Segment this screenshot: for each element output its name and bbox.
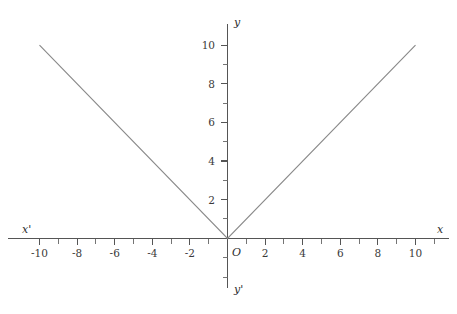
plot-background bbox=[0, 0, 457, 314]
x-axis-label: x bbox=[437, 223, 444, 236]
x-tick-label: 4 bbox=[299, 247, 306, 259]
x-tick-label: -10 bbox=[31, 247, 48, 259]
y-tick-label: 4 bbox=[208, 155, 215, 167]
x-tick-label: 8 bbox=[375, 247, 382, 259]
x-tick-label: 2 bbox=[262, 247, 269, 259]
y-tick-label: 8 bbox=[208, 78, 215, 90]
y-axis-label: y bbox=[233, 16, 241, 29]
y-tick-label: 10 bbox=[202, 39, 215, 51]
x-tick-label: -4 bbox=[147, 247, 158, 259]
absolute-value-plot: -10 -8 -6 -4 -2 2 4 6 8 10 2 4 6 8 10 x'… bbox=[0, 0, 457, 314]
x-tick-label: -8 bbox=[72, 247, 82, 259]
x-tick-label: 6 bbox=[337, 247, 344, 259]
figure-container: -10 -8 -6 -4 -2 2 4 6 8 10 2 4 6 8 10 x'… bbox=[0, 0, 457, 314]
y-tick-label: 2 bbox=[208, 194, 215, 206]
y-tick-label: 6 bbox=[208, 116, 215, 128]
x-tick-label: -6 bbox=[110, 247, 121, 259]
x-tick-label: 10 bbox=[409, 247, 422, 259]
y-prime-axis-label: y' bbox=[233, 283, 243, 296]
origin-label: O bbox=[232, 246, 241, 259]
x-prime-axis-label: x' bbox=[22, 223, 31, 236]
x-tick-label: -2 bbox=[185, 247, 195, 259]
